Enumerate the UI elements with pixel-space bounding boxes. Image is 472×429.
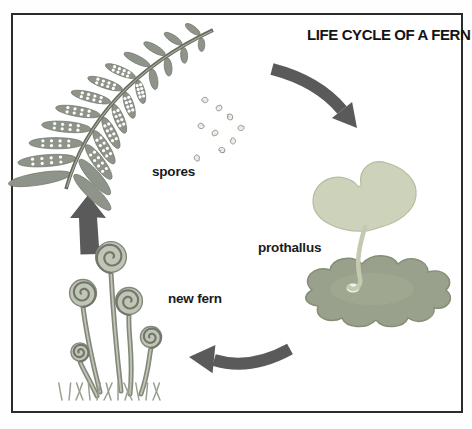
prothallus-illustration [306,162,451,327]
label-spores: spores [152,164,195,179]
prothallus-base-shading [330,273,414,305]
new-fern-illustration [59,242,162,400]
fern-life-cycle-figure: LIFE CYCLE OF A FERN spores prothallus n… [0,0,472,429]
spores-illustration [194,97,245,162]
diagram-artwork [0,0,472,429]
prothallus-leaf [313,162,416,232]
label-prothallus: prothallus [258,240,321,255]
arrow-spores-to-prothallus [272,69,357,128]
diagram-title: LIFE CYCLE OF A FERN [307,26,470,43]
label-new-fern: new fern [168,291,222,306]
arrow-prothallus-to-new-fern [189,345,290,373]
fern-frond-illustration [7,21,213,214]
